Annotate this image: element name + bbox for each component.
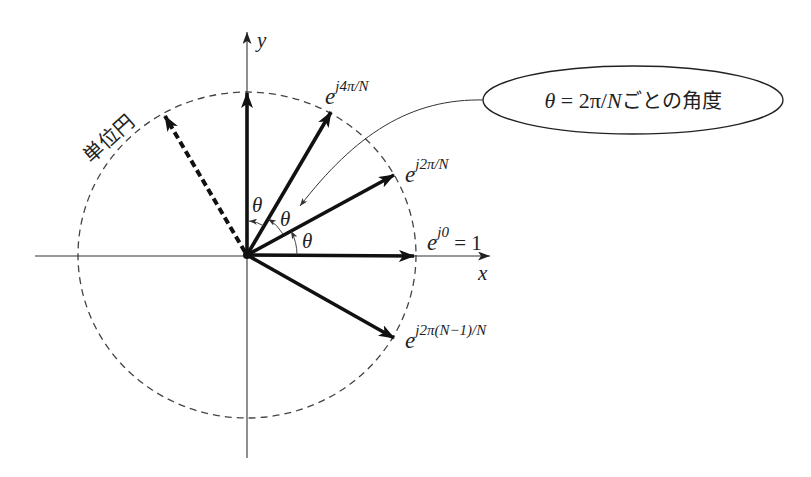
label-e-j2pi-over-N: ej2π/N — [405, 156, 450, 187]
label-e-j2pi-over-N-base: e — [405, 162, 415, 187]
angle-arc-1 — [291, 231, 297, 255]
angle-arc-3 — [249, 221, 264, 226]
unit-circle-diagram: x y θ θ θ ej0 = 1 ej2π/N ej4π/N ej2π(N−1… — [0, 0, 811, 477]
label-e-j0-suffix: = 1 — [449, 231, 482, 255]
theta-label-2: θ — [280, 207, 290, 231]
label-e-j2pi-over-N-exponent: j2π/N — [413, 156, 449, 172]
callout-equals: = 2π/ — [555, 88, 608, 113]
callout-rest: ごとの角度 — [622, 90, 722, 112]
theta-label-1: θ — [302, 229, 312, 253]
vector-e-j0-arrow — [247, 255, 414, 256]
label-e-j0-base: e — [427, 230, 437, 255]
label-e-j0: ej0 = 1 — [427, 224, 482, 255]
label-e-j0-exponent: j0 — [435, 224, 449, 240]
callout-text: θ = 2π/Nごとの角度 — [544, 88, 721, 113]
y-axis-label: y — [255, 28, 267, 52]
label-e-j4pi-over-N-exponent: j4π/N — [333, 78, 369, 94]
vector-dashed-arrow — [165, 116, 245, 252]
theta-label-3: θ — [252, 193, 262, 217]
callout-theta: θ — [544, 88, 555, 113]
label-e-j2pi-N-minus-1-over-N: ej2π(N−1)/N — [405, 322, 487, 353]
label-e-j4pi-over-N: ej4π/N — [325, 78, 370, 109]
vector-e-j2pi-N-minus-1-over-N-arrow — [247, 255, 394, 338]
callout-n: N — [606, 88, 623, 113]
origin-point — [243, 251, 251, 259]
label-e-j2pi-N-minus-1-base: e — [405, 328, 415, 353]
x-axis-label: x — [477, 261, 488, 285]
label-e-j2pi-N-minus-1-exponent: j2π(N−1)/N — [413, 322, 487, 339]
label-e-j4pi-over-N-base: e — [325, 84, 335, 109]
